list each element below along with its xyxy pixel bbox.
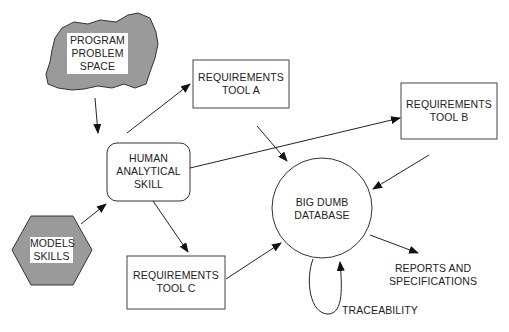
label-line: TOOL A [193, 84, 289, 97]
label-line: TRACEABILITY [340, 304, 420, 317]
label-line: REQUIREMENTS [401, 98, 497, 111]
tool-a-label: REQUIREMENTS TOOL A [193, 71, 289, 97]
label-line: ANALYTICAL [107, 165, 190, 178]
tool-c-label: REQUIREMENTS TOOL C [127, 269, 225, 295]
edge-human-to-tool-b [190, 118, 400, 168]
label-line: BIG DUMB [272, 196, 372, 209]
label-line: SKILLS [30, 250, 73, 263]
traceability-label: TRACEABILITY [340, 304, 420, 317]
label-line: PROGRAM [67, 34, 128, 47]
human-skill-label: HUMAN ANALYTICAL SKILL [107, 152, 190, 191]
edge-tool-a-to-db [257, 126, 287, 161]
problem-space-label: PROGRAM PROBLEM SPACE [67, 33, 128, 74]
edge-human-to-tool-c [153, 201, 188, 252]
label-line: REPORTS AND [378, 262, 488, 275]
edge-tool-c-to-db [226, 243, 281, 279]
label-line: SKILL [107, 178, 190, 191]
edge-models-to-human [81, 204, 106, 224]
edge-human-to-tool-a [127, 84, 190, 133]
edge-tool-b-to-db [373, 155, 429, 189]
models-skills-label: MODELS SKILLS [30, 237, 73, 263]
edge-problem-to-human [95, 98, 98, 133]
label-line: TOOL B [401, 111, 497, 124]
label-line: REQUIREMENTS [193, 71, 289, 84]
edge-db-to-reports [370, 235, 418, 253]
tool-b-label: REQUIREMENTS TOOL B [401, 98, 497, 124]
label-line: PROBLEM [67, 47, 128, 60]
label-line: MODELS [30, 237, 73, 250]
label-line: REQUIREMENTS [127, 269, 225, 282]
database-label: BIG DUMB DATABASE [272, 196, 372, 222]
label-line: DATABASE [272, 209, 372, 222]
label-line: SPACE [67, 60, 128, 73]
edge-traceability-loop [309, 259, 341, 314]
reports-label: REPORTS AND SPECIFICATIONS [378, 262, 488, 288]
label-line: TOOL C [127, 282, 225, 295]
label-line: SPECIFICATIONS [378, 275, 488, 288]
label-line: HUMAN [107, 152, 190, 165]
